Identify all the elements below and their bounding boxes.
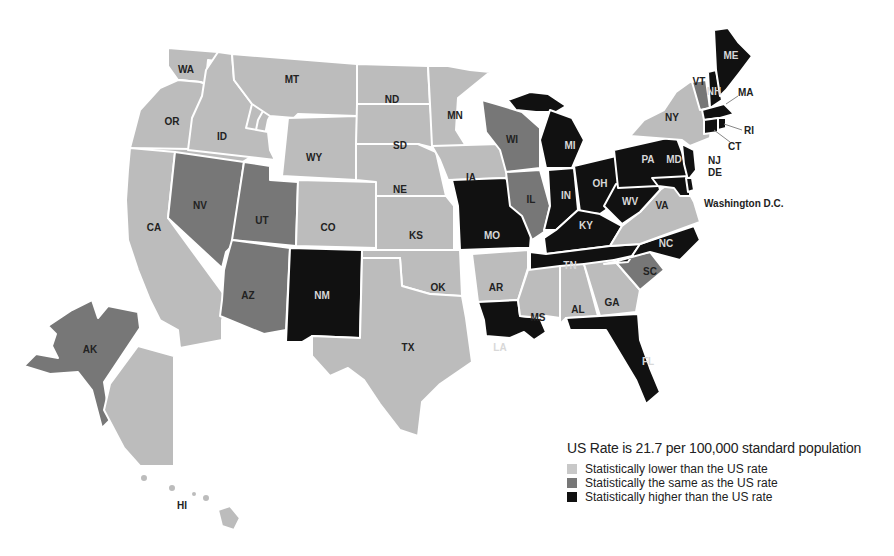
- label-mn: MN: [447, 110, 463, 121]
- label-nv: NV: [193, 200, 207, 211]
- label-nm: NM: [314, 290, 330, 301]
- label-pa: PA: [641, 154, 654, 165]
- state-hi-island-4: [202, 494, 210, 502]
- state-hi-island-2: [168, 484, 176, 492]
- label-in: IN: [561, 190, 571, 201]
- legend-item-higher: Statistically higher than the US rate: [567, 490, 861, 504]
- label-ak: AK: [83, 344, 98, 355]
- label-mi: MI: [564, 140, 575, 151]
- label-ny: NY: [665, 112, 679, 123]
- legend-swatch-higher: [567, 492, 577, 502]
- label-washington-dc: Washington D.C.: [704, 198, 784, 209]
- legend-label-lower: Statistically lower than the US rate: [585, 462, 768, 476]
- label-mt: MT: [285, 74, 299, 85]
- label-va: VA: [655, 200, 668, 211]
- label-ok: OK: [431, 282, 447, 293]
- state-mn[interactable]: [428, 66, 490, 146]
- label-oh: OH: [593, 178, 608, 189]
- legend-label-higher: Statistically higher than the US rate: [585, 490, 772, 504]
- legend: US Rate is 21.7 per 100,000 standard pop…: [567, 440, 861, 504]
- label-wy: WY: [306, 152, 322, 163]
- legend-item-same: Statistically the same as the US rate: [567, 476, 861, 490]
- label-wa: WA: [178, 64, 194, 75]
- label-id: ID: [217, 131, 227, 142]
- legend-title: US Rate is 21.7 per 100,000 standard pop…: [567, 440, 861, 456]
- label-md: MD: [666, 154, 682, 165]
- state-ks[interactable]: [376, 196, 454, 250]
- legend-swatch-same: [567, 478, 577, 488]
- label-nc: NC: [659, 238, 673, 249]
- label-or: OR: [165, 116, 181, 127]
- state-mi-upper[interactable]: [508, 92, 566, 112]
- label-ks: KS: [409, 230, 423, 241]
- label-il: IL: [527, 194, 536, 205]
- label-sc: SC: [643, 266, 657, 277]
- label-tx: TX: [402, 342, 415, 353]
- label-nd: ND: [385, 94, 399, 105]
- state-hi-island-3: [191, 491, 197, 497]
- state-de[interactable]: [686, 178, 694, 192]
- label-ri: RI: [744, 125, 754, 136]
- label-vt: VT: [693, 76, 706, 87]
- label-me: ME: [724, 50, 739, 61]
- state-co[interactable]: [296, 180, 376, 248]
- label-ct: CT: [728, 141, 741, 152]
- label-al: AL: [571, 304, 584, 315]
- label-ca: CA: [147, 222, 161, 233]
- state-hi-island-1: [140, 474, 148, 482]
- state-mi[interactable]: [540, 110, 584, 168]
- state-az[interactable]: [220, 240, 290, 334]
- label-nj: NJ: [708, 155, 721, 166]
- leader-ma: [726, 96, 738, 104]
- label-ut: UT: [255, 215, 268, 226]
- legend-item-lower: Statistically lower than the US rate: [567, 462, 861, 476]
- label-ma: MA: [738, 87, 754, 98]
- label-wi: WI: [506, 134, 518, 145]
- label-tn: TN: [563, 260, 576, 271]
- label-mo: MO: [484, 230, 500, 241]
- label-ia: IA: [466, 172, 476, 183]
- label-fl: FL: [642, 356, 654, 367]
- label-az: AZ: [241, 290, 254, 301]
- label-sd: SD: [393, 140, 407, 151]
- label-hi: HI: [177, 500, 187, 511]
- label-wv: WV: [622, 196, 638, 207]
- label-co: CO: [321, 222, 336, 233]
- legend-swatch-lower: [567, 464, 577, 474]
- label-de: DE: [708, 167, 722, 178]
- label-ms: MS: [531, 312, 546, 323]
- label-ar: AR: [489, 282, 504, 293]
- label-la: LA: [493, 342, 506, 353]
- state-wy[interactable]: [282, 116, 357, 180]
- label-nh: NH: [707, 86, 721, 97]
- state-hi[interactable]: [218, 506, 240, 530]
- label-ne: NE: [393, 184, 407, 195]
- legend-label-same: Statistically the same as the US rate: [585, 476, 778, 490]
- label-ky: KY: [579, 220, 593, 231]
- label-ga: GA: [605, 297, 620, 308]
